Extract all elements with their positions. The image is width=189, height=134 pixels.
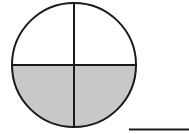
fraction-diagram — [0, 0, 189, 134]
